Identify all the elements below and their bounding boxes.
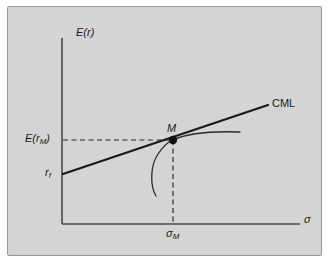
sigma-m-label: σM — [166, 228, 179, 241]
risk-free-rate-subscript: f — [49, 171, 51, 180]
capital-market-line — [63, 105, 268, 174]
efficient-frontier-curve — [152, 132, 240, 196]
expected-return-m-base: E(r — [25, 132, 40, 144]
y-axis-label: E(r) — [76, 27, 94, 38]
market-portfolio-label: M — [167, 123, 176, 134]
expected-return-m-close: ) — [46, 132, 50, 144]
risk-free-rate-label: rf — [45, 167, 51, 180]
x-axis-label: σ — [304, 214, 311, 225]
sigma-m-base: σ — [166, 227, 173, 239]
figure-container: E(r) E(rM) rf CML M σM σ — [0, 0, 330, 266]
expected-return-m-label: E(rM) — [25, 133, 50, 146]
market-portfolio-point — [169, 136, 177, 144]
cml-label: CML — [272, 98, 295, 109]
sigma-m-subscript: M — [173, 232, 180, 241]
